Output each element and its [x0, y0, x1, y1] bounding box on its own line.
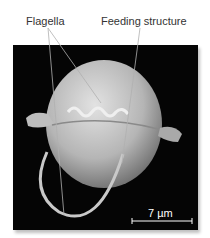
- micrograph-illustration: [0, 0, 210, 238]
- dinoflagellate-cell: [26, 60, 182, 216]
- scale-bar-label: 7 µm: [148, 207, 173, 219]
